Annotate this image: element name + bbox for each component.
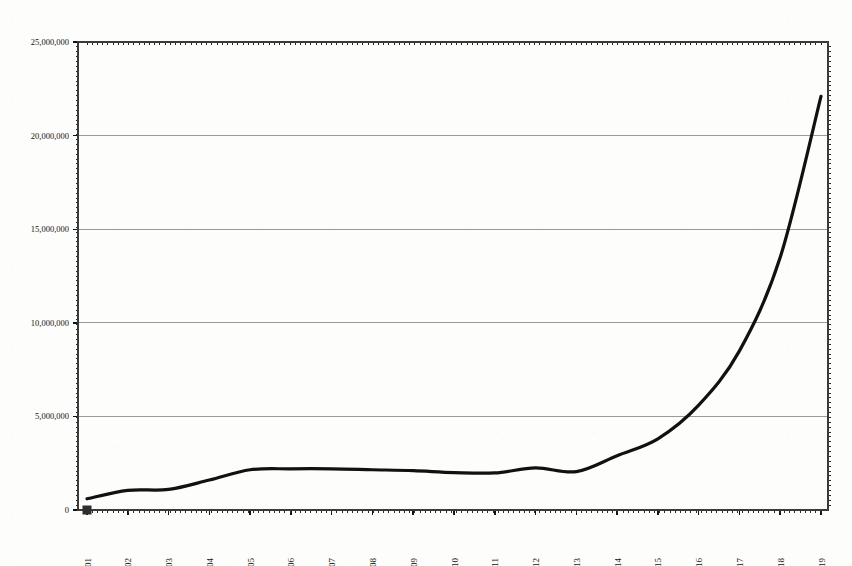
data-line: [87, 96, 821, 498]
y-axis-tick-label: 10,000,000: [31, 318, 69, 328]
x-axis-tick-label: 1802: [123, 558, 133, 566]
data-series-group: [87, 96, 821, 498]
y-axis-labels-group: 05,000,00010,000,00015,000,00020,000,000…: [31, 37, 69, 515]
y-axis-tick-label: 25,000,000: [31, 37, 69, 47]
x-axis-tick-label: 1803: [164, 558, 174, 566]
x-axis-tick-label: 1819: [817, 558, 827, 566]
y-axis-ticks-group: [73, 42, 831, 510]
x-axis-tick-label: 1806: [286, 558, 296, 566]
data-markers-group: [83, 506, 92, 515]
x-axis-tick-label: 1815: [653, 558, 663, 566]
axes-border-group: [78, 42, 828, 510]
x-axis-labels-group: 1801180218031804180518061807180818091810…: [83, 558, 827, 566]
x-axis-tick-label: 1818: [776, 558, 786, 566]
y-axis-tick-label: 20,000,000: [31, 131, 69, 141]
x-axis-tick-label: 1801: [83, 558, 93, 566]
x-axis-tick-label: 1817: [735, 558, 745, 566]
x-axis-tick-label: 1813: [572, 558, 582, 566]
data-point-marker: [83, 506, 92, 515]
y-axis-tick-label: 15,000,000: [31, 224, 69, 234]
chart-plot-svg: 05,000,00010,000,00015,000,00020,000,000…: [0, 0, 852, 566]
x-axis-tick-label: 1816: [694, 558, 704, 566]
chart-figure: Figure 1. Growth, 1801-1819 05,000,00010…: [0, 0, 852, 566]
x-axis-tick-label: 1809: [409, 558, 419, 566]
x-axis-tick-label: 1814: [613, 558, 623, 566]
x-axis-tick-label: 1812: [531, 558, 541, 566]
x-axis-tick-label: 1805: [246, 558, 256, 566]
x-axis-ticks-group: [87, 42, 821, 515]
x-axis-tick-label: 1807: [327, 558, 337, 566]
y-axis-tick-label: 5,000,000: [35, 411, 69, 421]
gridlines-group: [78, 136, 828, 417]
x-axis-tick-label: 1808: [368, 558, 378, 566]
x-axis-tick-label: 1804: [205, 558, 215, 566]
x-axis-tick-label: 1811: [490, 558, 500, 566]
y-axis-tick-label: 0: [65, 505, 69, 515]
x-axis-tick-label: 1810: [450, 558, 460, 566]
